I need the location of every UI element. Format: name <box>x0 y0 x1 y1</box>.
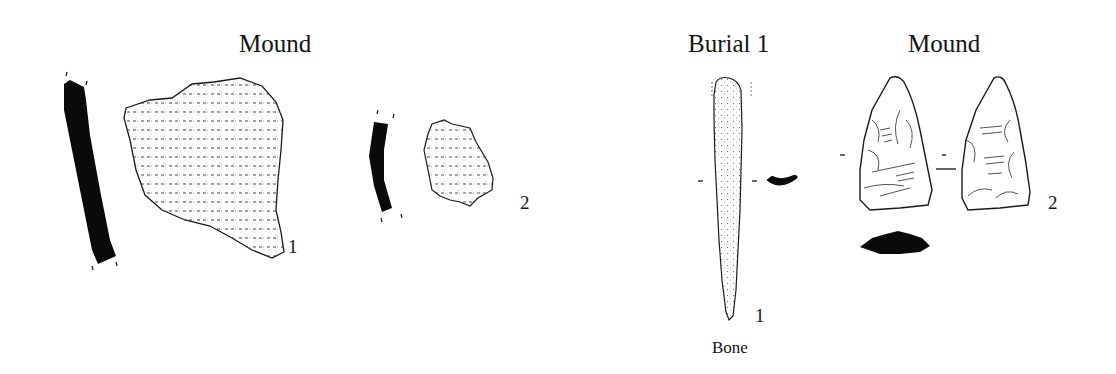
point-face-b <box>962 77 1030 210</box>
heading-mound-right: Mound <box>908 30 980 58</box>
heading-burial-1: Burial 1 <box>688 30 769 58</box>
item-number-2-right: 2 <box>1048 192 1058 214</box>
bone-awl <box>698 78 797 321</box>
sherd-2-profile <box>369 110 402 222</box>
sherd-1-profile <box>64 72 117 270</box>
caption-bone: Bone <box>712 338 748 358</box>
bone-awl-cross-section <box>768 176 797 185</box>
item-number-1-left: 1 <box>288 236 298 258</box>
sherd-2-face <box>424 120 493 206</box>
point-face-a <box>840 77 932 210</box>
heading-mound-left: Mound <box>239 30 311 58</box>
item-number-2-left: 2 <box>520 192 530 214</box>
point-cross-section <box>860 231 930 254</box>
item-number-1-right: 1 <box>755 305 765 327</box>
sherd-1-face <box>124 78 284 258</box>
